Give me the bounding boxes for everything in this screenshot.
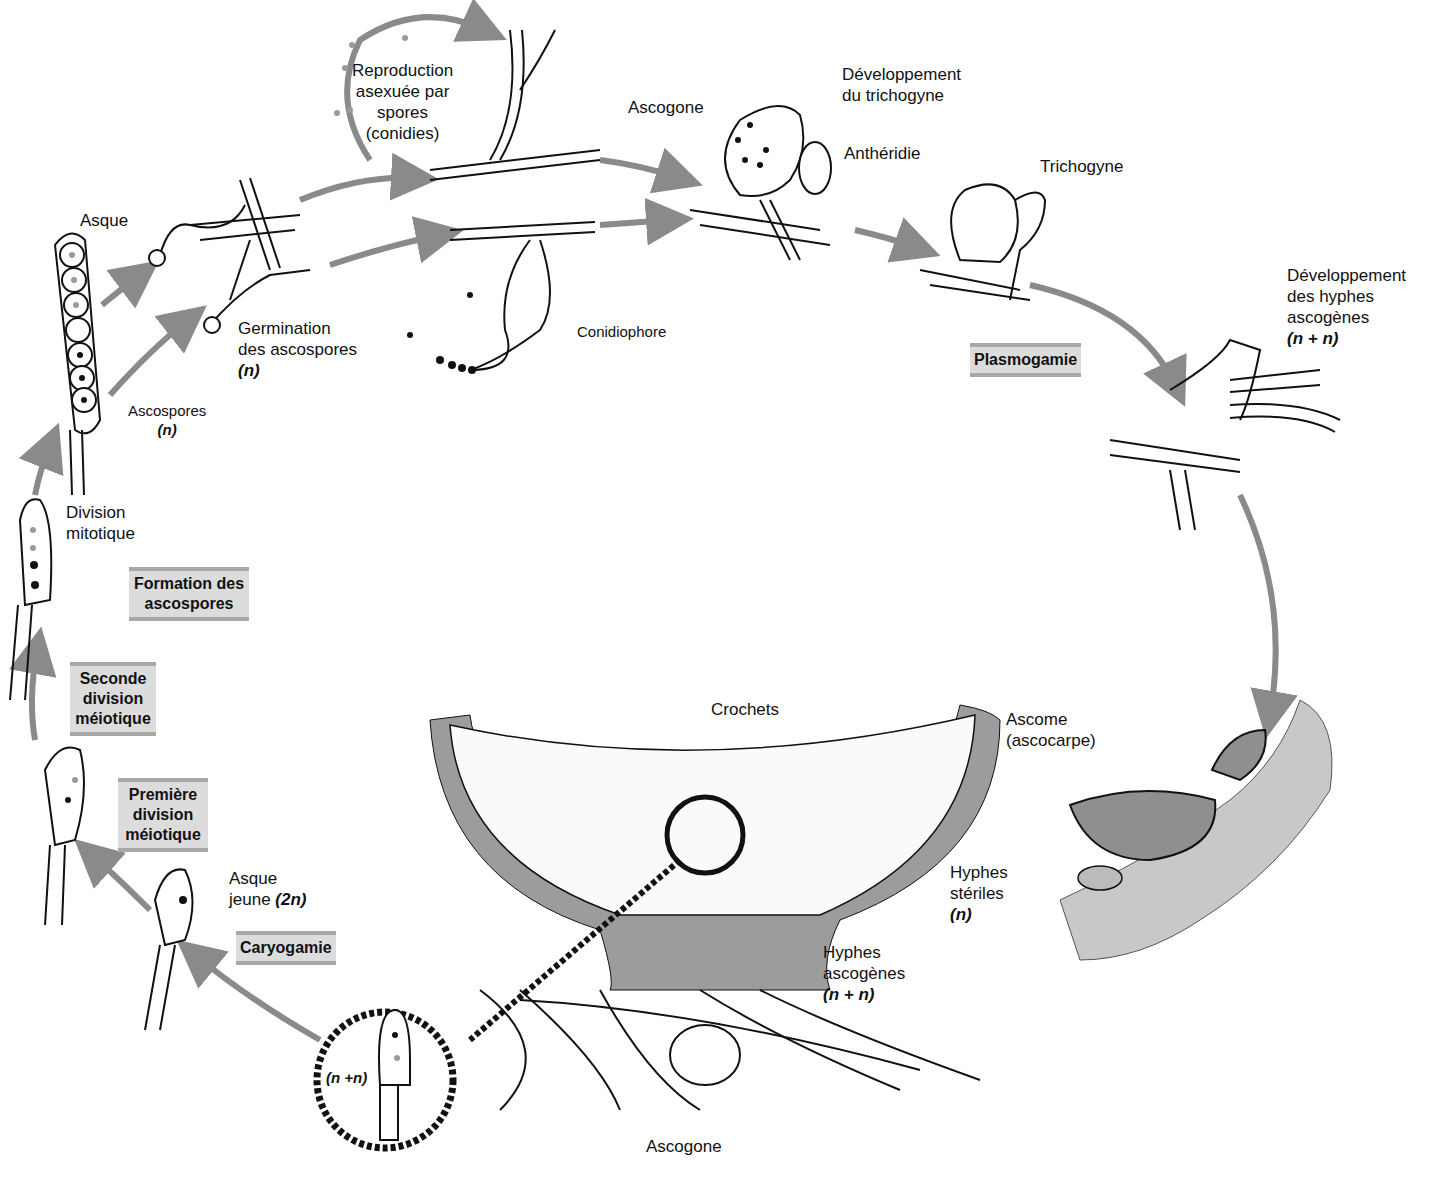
label-germination: Germination des ascospores (n) [238,318,357,381]
label-line: des hyphes [1287,286,1406,307]
label-line: ascogènes [823,963,905,984]
label-line: Développement [1287,265,1406,286]
label-hyphes-steriles: Hyphes stériles (n) [950,862,1008,925]
arrow-to-mitose [35,445,50,495]
label-line: (ascocarpe) [1006,730,1096,751]
label-line: Division [66,502,135,523]
label-ascogone-top: Ascogone [628,97,704,118]
stage-line: Première [122,785,204,805]
stage-seconde-division: Seconde division méiotique [70,662,156,736]
ascocarp-drawing [1060,700,1332,960]
arrow-germination-to-conidia [300,178,415,200]
ploidy-label: (n) [128,420,206,439]
label-ascogone-bottom: Ascogone [646,1136,722,1157]
ascogenous-hyphae-drawing [1110,340,1340,530]
label-line: asexuée par [352,81,453,102]
ploidy-label: (n + n) [823,984,905,1005]
stage-line: Formation des [133,574,245,594]
stage-line: Seconde [74,669,152,689]
label-inset-ploidy: (n +n) [326,1068,367,1087]
ploidy-label: (2n) [275,890,306,909]
ascogone-drawing [690,106,831,260]
stage-line: division [122,805,204,825]
label-hyphes-ascogenes: Hyphes ascogènes (n + n) [823,942,905,1005]
plasmogamie-drawing [920,184,1045,300]
arrow-antheridie-to-plasmogamie [855,230,918,248]
arrow-to-seconde [32,650,37,740]
stage-line: division [74,689,152,709]
label-line: mitotique [66,523,135,544]
stage-line: ascospores [133,594,245,614]
label-division-mitotique: Division mitotique [66,502,135,544]
ploidy-label: (n) [950,904,1008,925]
asci-left [10,234,193,1030]
label-line: Hyphes [823,942,905,963]
stage-formation-ascospores: Formation des ascospores [129,567,249,621]
label-ascospores: Ascospores (n) [128,401,206,439]
arrow-asque-jeune-to-premiere [92,855,150,910]
conidia-spores [407,292,476,374]
label-ascome: Ascome (ascocarpe) [1006,709,1096,751]
label-asque-jeune: Asque jeune (2n) [229,868,307,910]
label-trichogyne: Trichogyne [1040,156,1123,177]
label-line: Développement [842,64,961,85]
germination-drawing [149,178,310,333]
arrow-asque-to-germ-1 [102,275,140,305]
arrow-conidia-to-ascogone [600,160,680,178]
label-line: ascogènes [1287,307,1406,328]
ploidy-label: (n) [238,360,357,381]
arrow-conidiophore-to-ascogone [600,220,670,225]
label-line: Ascome [1006,709,1096,730]
label-line: stériles [950,883,1008,904]
label-conidiophore: Conidiophore [577,322,666,341]
conidia-hyphae [430,30,600,370]
ploidy-label: (n + n) [1287,328,1406,349]
label-line: Germination [238,318,357,339]
label-line: (conidies) [352,123,453,144]
label-asque-top: Asque [80,210,128,231]
stage-plasmogamie: Plasmogamie [970,343,1081,377]
label-line: Hyphes [950,862,1008,883]
stage-line: Caryogamie [240,938,332,958]
label-developpement-trichogyne: Développement du trichogyne [842,64,961,106]
label-antheridie: Anthéridie [844,143,921,164]
label-line: jeune [229,890,271,909]
stage-premiere-division: Première division méiotique [118,778,208,852]
apothecium-section [430,705,1000,1110]
label-line: Ascospores [128,401,206,420]
label-line: Reproduction [352,60,453,81]
stage-line: méiotique [74,709,152,729]
label-line: spores [352,102,453,123]
arrow-hyphes-to-ascome [1240,495,1276,715]
stage-line: méiotique [122,825,204,845]
arrow-asque-to-germ-2 [110,320,188,395]
label-line: Asque [229,868,307,889]
stage-caryogamie: Caryogamie [236,931,336,965]
stage-line: Plasmogamie [974,350,1077,370]
label-crochets: Crochets [711,699,779,720]
label-line: des ascospores [238,339,357,360]
label-reproduction-asexuee: Reproduction asexuée par spores (conidie… [352,60,453,144]
label-developpement-hyphes: Développement des hyphes ascogènes (n + … [1287,265,1406,349]
label-line: du trichogyne [842,85,961,106]
arrow-inset-to-caryogamie [195,955,320,1040]
arrow-germination-to-conidiophore [330,235,440,265]
